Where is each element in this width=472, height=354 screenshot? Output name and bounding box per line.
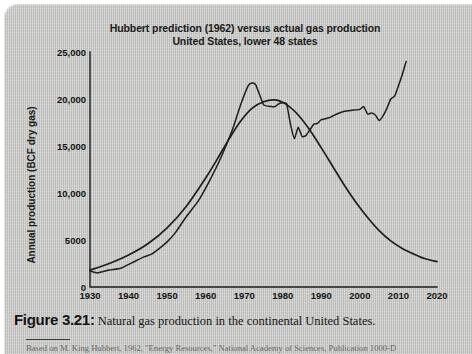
y-tick-label: 5000 <box>38 235 86 246</box>
figure-attribution: Based on M. King Hubbert, 1962, "Energy … <box>26 343 466 353</box>
y-tick-label: 25,000 <box>38 47 86 58</box>
plot-area: Annual production (BCF dry gas) 0500010,… <box>0 0 472 354</box>
x-tick-label: 1950 <box>147 290 187 301</box>
x-tick-label: 1990 <box>301 290 341 301</box>
y-tick-label: 10,000 <box>38 188 86 199</box>
y-tick-label: 15,000 <box>38 141 86 152</box>
axes-group <box>90 52 437 287</box>
figure-page: Hubbert prediction (1962) versus actual … <box>0 0 472 354</box>
y-tick-label: 20,000 <box>38 94 86 105</box>
figure-caption-text: Natural gas production in the continenta… <box>95 314 376 328</box>
x-axis-tick-labels: 1930194019501960197019801990200020102020 <box>0 290 472 306</box>
x-tick-label: 2000 <box>340 290 380 301</box>
series-hubbert-prediction-line <box>90 100 437 270</box>
x-tick-label: 1980 <box>263 290 303 301</box>
x-tick-label: 2020 <box>417 290 457 301</box>
figure-caption: Figure 3.21: Natural gas production in t… <box>14 311 460 329</box>
x-tick-label: 1960 <box>186 290 226 301</box>
footnote-rule <box>26 339 70 340</box>
x-tick-label: 1930 <box>70 290 110 301</box>
x-tick-label: 1940 <box>109 290 149 301</box>
figure-number: Figure 3.21: <box>14 311 95 328</box>
series-actual-production-line <box>90 61 406 273</box>
x-tick-label: 1970 <box>224 290 264 301</box>
series-group <box>90 61 437 273</box>
x-tick-label: 2010 <box>378 290 418 301</box>
axis-lines <box>90 52 437 287</box>
